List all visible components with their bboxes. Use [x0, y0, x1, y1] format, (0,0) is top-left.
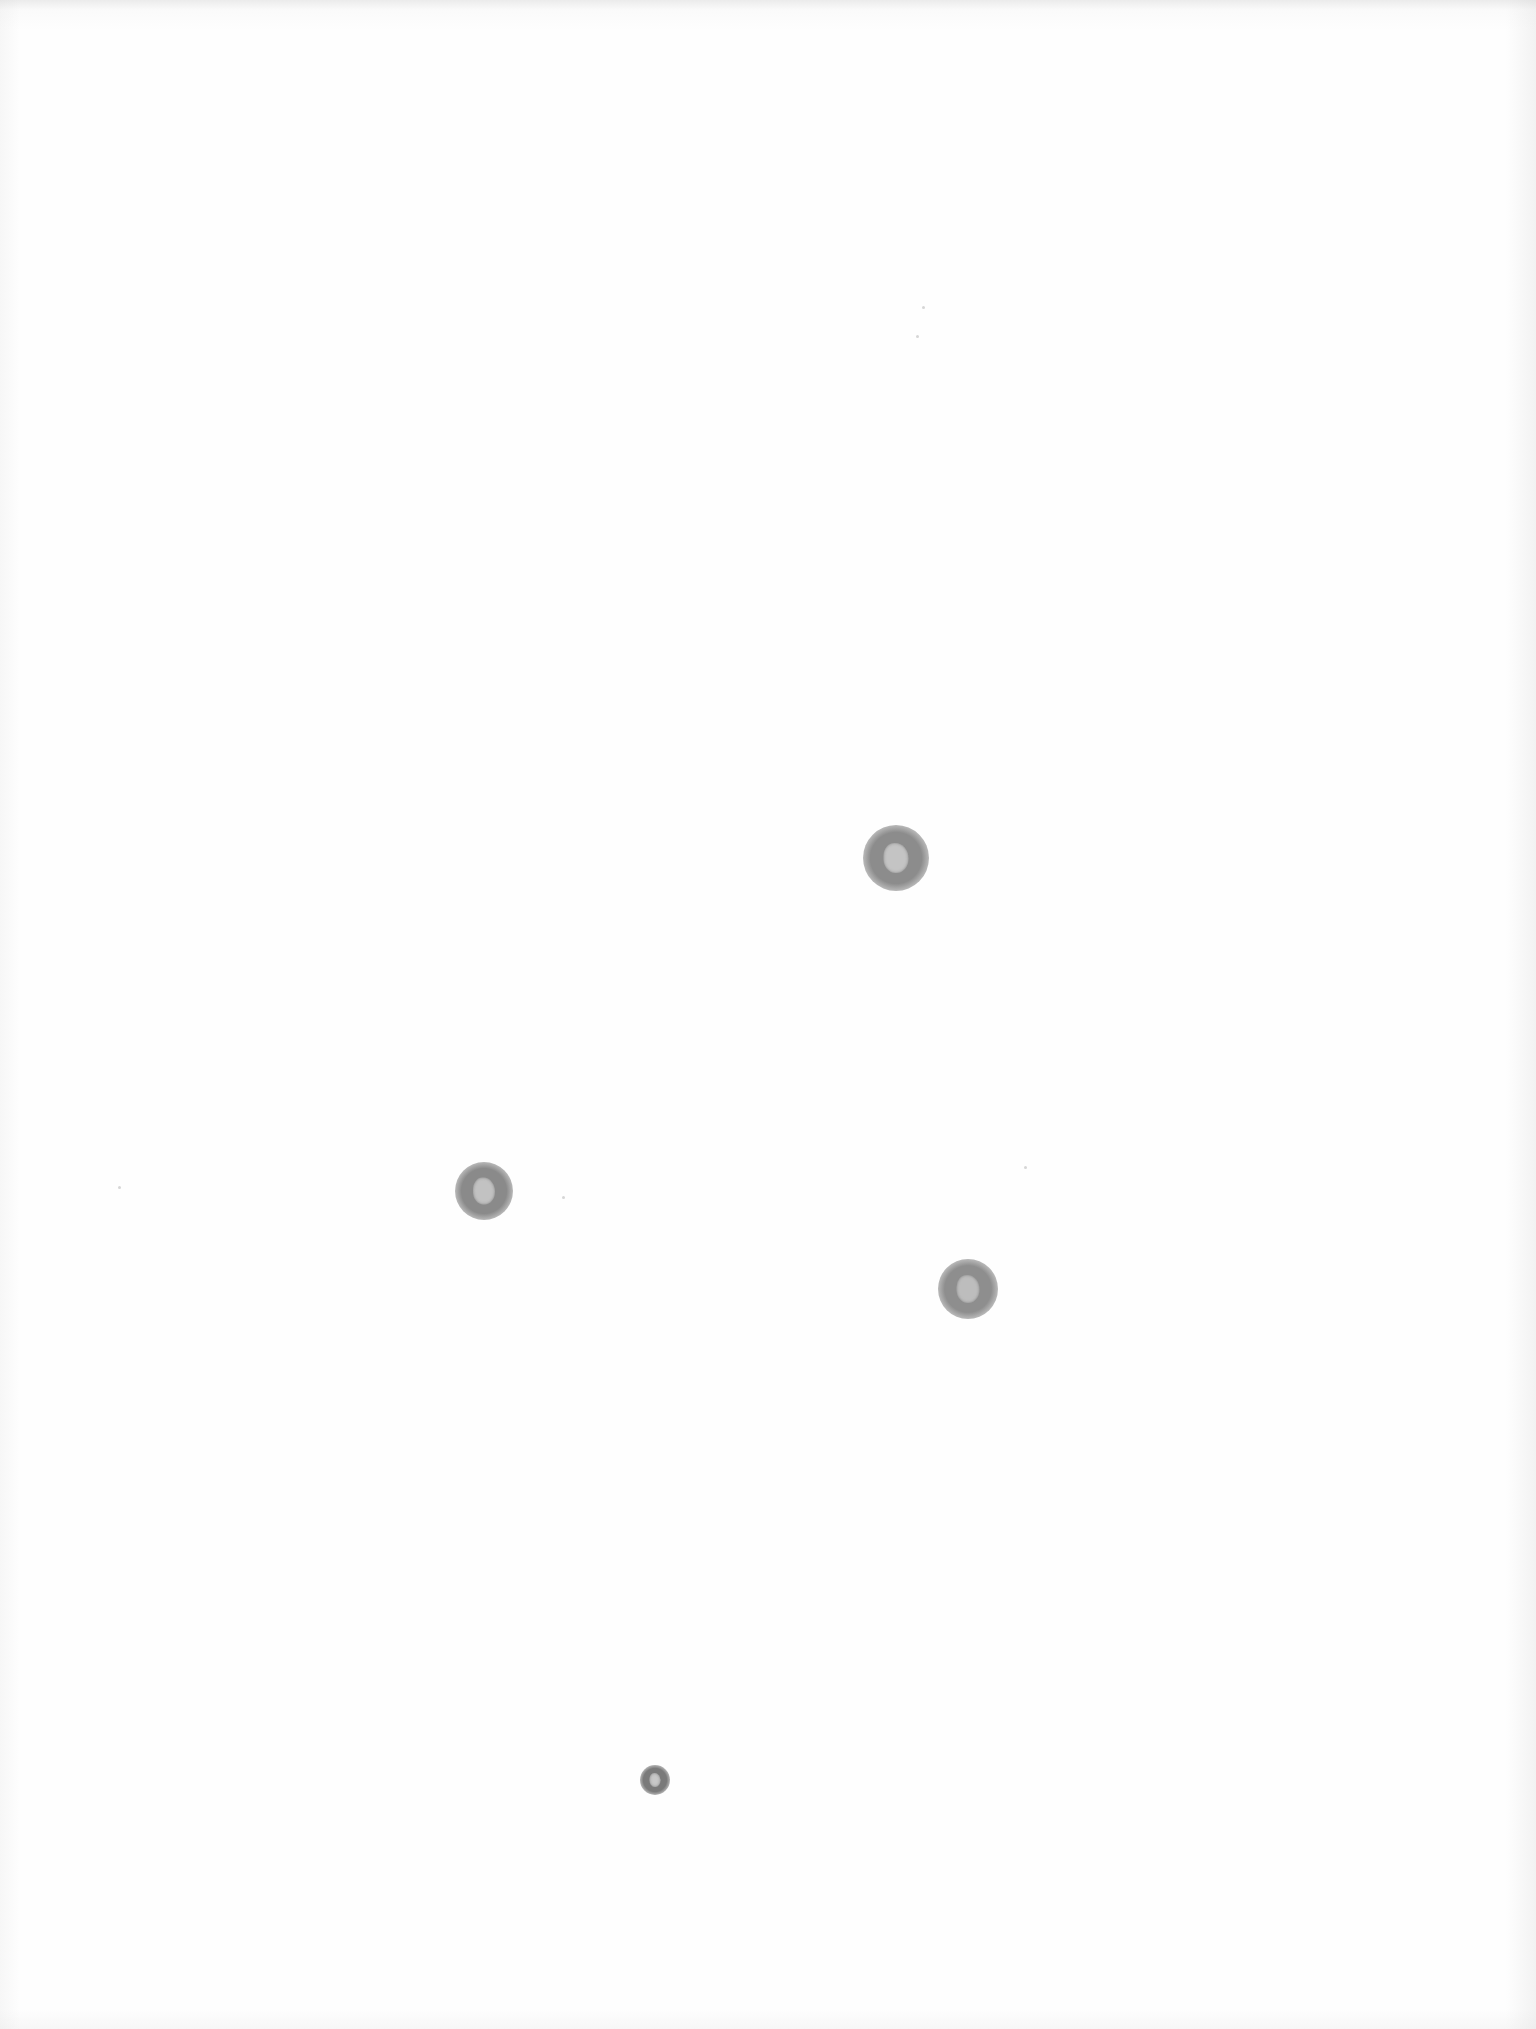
stain-3: [938, 1259, 998, 1319]
stain-2-core: [473, 1178, 495, 1205]
speck-4: [562, 1196, 565, 1199]
speck-1: [922, 306, 925, 309]
stain-1: [863, 825, 929, 891]
stain-4: [640, 1765, 670, 1795]
speck-2: [916, 335, 919, 338]
speck-5: [1024, 1166, 1027, 1169]
stain-4-core: [650, 1773, 661, 1787]
stain-2: [455, 1162, 513, 1220]
stain-1-core: [884, 843, 909, 873]
speck-3: [118, 1186, 121, 1189]
paper-background: [0, 0, 1536, 2029]
stain-3-core: [957, 1275, 980, 1303]
